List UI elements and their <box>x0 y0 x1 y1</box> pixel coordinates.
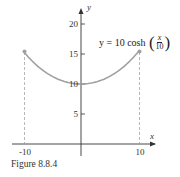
y-tick-label-20: 20 <box>69 19 79 29</box>
y-tick-label-10: 10 <box>69 79 79 89</box>
paren-open: ( <box>145 34 154 51</box>
y-tick-label-15: 15 <box>69 49 79 59</box>
x-tick-label-neg10: -10 <box>19 147 31 157</box>
curve-equation-label: y = 10 cosh ( x 10 ) <box>99 34 170 51</box>
chart-plot: y x 20 15 10 5 -10 10 <box>0 0 180 177</box>
equation-fraction: x 10 <box>156 34 164 51</box>
y-tick-label-5: 5 <box>74 109 79 119</box>
endpoint-left <box>23 50 27 54</box>
paren-close: ) <box>165 34 171 51</box>
y-ticks <box>81 24 85 114</box>
equation-lhs: y = 10 cosh <box>99 37 145 48</box>
y-axis-label: y <box>86 2 91 12</box>
figure-caption: Figure 8.8.4 <box>11 159 57 169</box>
x-axis-arrow-icon <box>150 142 156 147</box>
x-axis-label: x <box>149 131 154 141</box>
y-axis-arrow-icon <box>79 8 84 14</box>
fraction-denominator: 10 <box>156 43 164 51</box>
x-tick-label-10: 10 <box>136 147 146 157</box>
